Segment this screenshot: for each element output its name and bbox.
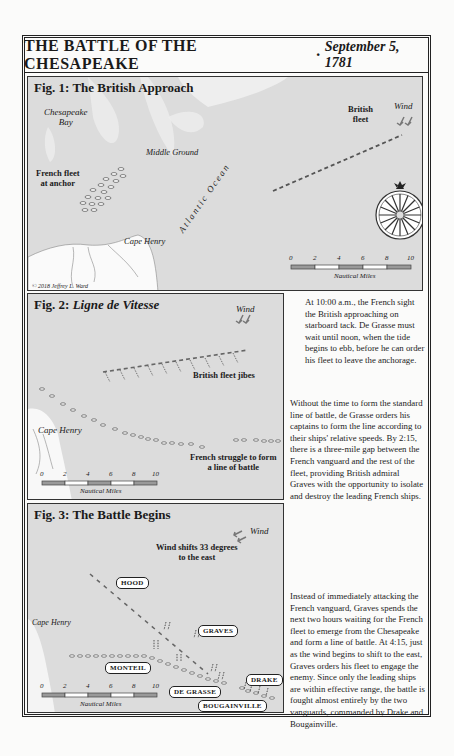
title-bar: THE BATTLE OF THE CHESAPEAKE · September… bbox=[24, 37, 429, 73]
scale-tick: 10 bbox=[152, 470, 159, 478]
label-wind-shift: Wind shifts 33 degrees to the east bbox=[156, 542, 238, 562]
tag-de-grasse: DE GRASSE bbox=[169, 686, 221, 698]
label-french-struggle: French struggle to form a line of battle bbox=[190, 452, 276, 472]
tag-graves: GRAVES bbox=[198, 625, 238, 637]
fig3-map: Fig. 3: The Battle Begins Wind Wind shif… bbox=[27, 503, 284, 713]
label-wind: Wind bbox=[250, 526, 269, 536]
label-middle-ground: Middle Ground bbox=[146, 147, 198, 157]
scale-tick: 2 bbox=[63, 682, 67, 690]
scale-tick: 0 bbox=[289, 254, 293, 262]
fig3-title: Fig. 3: The Battle Begins bbox=[34, 507, 171, 523]
tag-monteil: MONTEIL bbox=[105, 662, 151, 674]
label-cape-henry: Cape Henry bbox=[124, 236, 165, 246]
paragraph-3: Instead of immediately attacking the Fre… bbox=[290, 591, 428, 730]
paragraph-2: Without the time to form the standard li… bbox=[290, 398, 426, 502]
scale-tick: 2 bbox=[313, 254, 317, 262]
scale-unit: Nautical Miles bbox=[80, 700, 121, 708]
label-french-fleet: French fleet at anchor bbox=[36, 168, 80, 188]
scale-tick: 4 bbox=[86, 470, 90, 478]
scale-unit: Nautical Miles bbox=[334, 272, 375, 280]
label-chesapeake-bay: Chesapeake Bay bbox=[44, 107, 87, 127]
scale-tick: 2 bbox=[63, 470, 67, 478]
page-title: THE BATTLE OF THE CHESAPEAKE bbox=[24, 37, 311, 73]
scale-unit: Nautical Miles bbox=[80, 487, 121, 495]
tag-bougainville: BOUGAINVILLE bbox=[198, 700, 267, 712]
scale-tick: 8 bbox=[132, 682, 136, 690]
scale-tick: 8 bbox=[132, 470, 136, 478]
fig2-title-prefix: Fig. 2: bbox=[34, 297, 73, 312]
scale-tick: 4 bbox=[337, 254, 341, 262]
scale-tick: 6 bbox=[109, 470, 113, 478]
fig2-title-italic: Ligne de Vitesse bbox=[73, 297, 160, 312]
scale-tick: 6 bbox=[109, 682, 113, 690]
fig2-map: Fig. 2: Ligne de Vitesse Wind British fl… bbox=[27, 293, 284, 500]
copyright: © 2018 Jeffrey L. Ward bbox=[32, 281, 88, 291]
fig1-title: Fig. 1: The British Approach bbox=[34, 80, 194, 96]
label-british-jibes: British fleet jibes bbox=[193, 370, 255, 380]
scale-tick: 4 bbox=[86, 682, 90, 690]
scale-tick: 10 bbox=[407, 254, 414, 262]
label-british-fleet: British fleet bbox=[348, 104, 373, 124]
tag-hood: HOOD bbox=[116, 577, 149, 589]
scale-tick: 10 bbox=[152, 682, 159, 690]
fig1-map: Fig. 1: The British Approach Chesapeake … bbox=[27, 76, 423, 291]
scale-tick: 0 bbox=[40, 682, 44, 690]
scale-tick: 8 bbox=[385, 254, 389, 262]
title-date: September 5, 1781 bbox=[325, 39, 429, 71]
fig2-title: Fig. 2: Ligne de Vitesse bbox=[34, 297, 159, 313]
label-wind: Wind bbox=[236, 304, 255, 314]
label-wind: Wind bbox=[394, 101, 413, 111]
paragraph-1: At 10:00 a.m., the French sight the Brit… bbox=[305, 297, 427, 367]
label-cape-henry: Cape Henry bbox=[32, 618, 71, 628]
title-separator: · bbox=[315, 46, 320, 64]
label-cape-henry: Cape Henry bbox=[38, 425, 82, 435]
tag-drake: DRAKE bbox=[246, 674, 283, 686]
scale-tick: 0 bbox=[40, 470, 44, 478]
scale-tick: 6 bbox=[361, 254, 365, 262]
